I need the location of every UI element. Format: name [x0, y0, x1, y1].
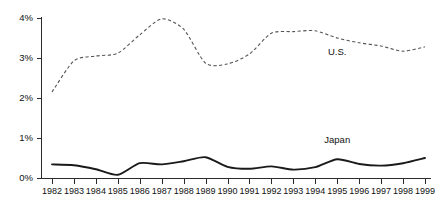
x-tick-label: 1989 [196, 186, 216, 196]
y-tick-label: 2% [19, 92, 33, 103]
series-label-japan: Japan [324, 134, 350, 145]
series-line-japan [52, 157, 425, 175]
series-label-us: U.S. [328, 46, 346, 57]
x-tick-label: 1984 [86, 186, 106, 196]
x-tick-label: 1985 [108, 186, 128, 196]
x-tick-label: 1982 [42, 186, 62, 196]
y-tick-label: 4% [19, 12, 33, 23]
x-tick-label: 1997 [371, 186, 391, 196]
y-axis-tick-labels: 0%1%2%3%4% [19, 12, 33, 183]
y-tick-label: 3% [19, 52, 33, 63]
x-tick-label: 1988 [174, 186, 194, 196]
chart-container: 0%1%2%3%4% 19821983198419851986198719881… [0, 0, 438, 203]
line-chart: 0%1%2%3%4% 19821983198419851986198719881… [0, 0, 438, 203]
x-tick-label: 1993 [283, 186, 303, 196]
x-tick-label: 1990 [218, 186, 238, 196]
x-tick-label: 1996 [349, 186, 369, 196]
x-tick-label: 1983 [64, 186, 84, 196]
x-tick-label: 1992 [261, 186, 281, 196]
x-tick-label: 1986 [130, 186, 150, 196]
series-line-us [52, 19, 425, 92]
y-axis-ticks [37, 19, 42, 179]
x-tick-label: 1991 [239, 186, 259, 196]
x-tick-label: 1987 [152, 186, 172, 196]
x-axis-tick-labels: 1982198319841985198619871988198919901991… [42, 186, 435, 196]
y-tick-label: 1% [19, 132, 33, 143]
x-tick-label: 1994 [305, 186, 325, 196]
y-tick-label: 0% [19, 172, 33, 183]
x-tick-label: 1998 [393, 186, 413, 196]
x-tick-label: 1999 [415, 186, 435, 196]
x-tick-label: 1995 [327, 186, 347, 196]
x-axis-ticks [53, 179, 426, 184]
